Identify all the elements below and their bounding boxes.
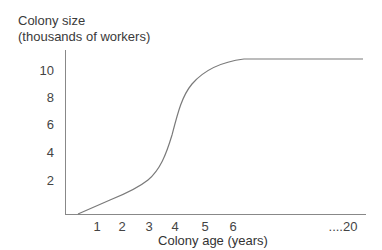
- x-axis-title: Colony age (years): [158, 233, 268, 248]
- x-tick-4: 4: [171, 219, 178, 234]
- y-tick-10: 10: [40, 63, 54, 78]
- x-tick-3: 3: [145, 219, 152, 234]
- x-tick-6: 6: [229, 219, 236, 234]
- x-tick-20: ....20: [329, 219, 358, 234]
- x-tick-2: 2: [118, 219, 125, 234]
- y-tick-2: 2: [47, 173, 54, 188]
- x-tick-5: 5: [201, 219, 208, 234]
- x-tick-1: 1: [93, 219, 100, 234]
- y-tick-8: 8: [47, 90, 54, 105]
- chart-plot: 10 8 6 4 2 1 2 3 4 5 6 ....20 Colony age…: [0, 0, 382, 250]
- colony-growth-curve: [78, 59, 363, 214]
- y-tick-6: 6: [47, 117, 54, 132]
- y-tick-4: 4: [47, 145, 54, 160]
